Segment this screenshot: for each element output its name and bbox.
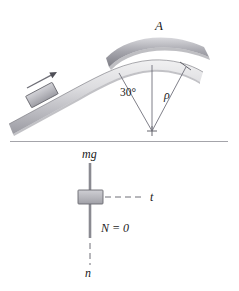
radius-line-left xyxy=(119,73,152,131)
free-body-diagram: mg N = 0 t n xyxy=(78,147,154,280)
fbd-block xyxy=(78,190,103,204)
point-a-label: A xyxy=(154,18,163,33)
weight-label: mg xyxy=(82,147,97,161)
n-axis-label: n xyxy=(85,266,91,280)
t-axis-label: t xyxy=(150,190,154,204)
physics-figure: A 30° ρ mg N = 0 t n xyxy=(0,0,239,291)
radius-label: ρ xyxy=(163,88,170,102)
upper-scene: A 30° ρ xyxy=(9,18,210,136)
normal-force-label: N = 0 xyxy=(100,221,129,235)
angle-label: 30° xyxy=(120,86,137,98)
figure-canvas: A 30° ρ mg N = 0 t n xyxy=(0,0,239,291)
